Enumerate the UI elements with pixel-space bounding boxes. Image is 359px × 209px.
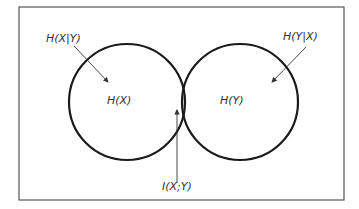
label-h-y: H(Y) bbox=[220, 94, 244, 107]
label-h-x: H(X) bbox=[107, 94, 131, 107]
arrow-h-x-given-y bbox=[74, 46, 108, 82]
venn-diagram: H(X|Y) H(Y|X) H(X) H(Y) I(X;Y) bbox=[0, 0, 359, 209]
label-h-y-given-x: H(Y|X) bbox=[283, 30, 318, 43]
arrow-h-y-given-x bbox=[272, 47, 306, 82]
label-mutual-info: I(X;Y) bbox=[162, 180, 192, 193]
label-h-x-given-y: H(X|Y) bbox=[46, 32, 81, 45]
